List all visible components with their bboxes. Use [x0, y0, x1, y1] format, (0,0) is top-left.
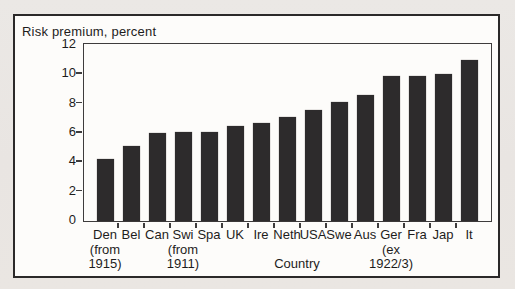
bar-it — [461, 60, 478, 221]
y-tick-label-12: 12 — [46, 36, 76, 52]
x-category-label-line: Fra — [407, 228, 427, 243]
x-category-label-den: Den(from1915) — [88, 228, 121, 272]
x-category-label-line: Spa — [197, 228, 220, 243]
x-category-label-can: Can — [145, 228, 169, 243]
x-category-label-line: Den — [88, 228, 121, 243]
bar-ire — [253, 123, 270, 221]
x-category-label-line: (from — [167, 243, 199, 258]
bar-uk — [227, 126, 244, 221]
y-tick-label-10: 10 — [46, 65, 76, 81]
x-category-label-uk: UK — [226, 228, 244, 243]
x-category-label-line: (from — [88, 243, 121, 258]
x-category-label-it: It — [465, 228, 472, 243]
y-tick-label-0: 0 — [46, 212, 76, 228]
y-tick-label-8: 8 — [46, 95, 76, 111]
x-category-label-neth: Neth — [273, 228, 300, 243]
x-tick-mark-12 — [403, 223, 405, 228]
x-category-label-line: Bel — [122, 228, 141, 243]
bar-swe — [331, 102, 348, 221]
y-tick-label-2: 2 — [46, 183, 76, 199]
x-category-label-line: 1911) — [167, 257, 199, 272]
bar-usa — [305, 110, 322, 221]
x-category-label-swi: Swi(from1911) — [167, 228, 199, 272]
x-category-label-line: It — [465, 228, 472, 243]
x-category-label-line: Swi — [167, 228, 199, 243]
x-category-label-bel: Bel — [122, 228, 141, 243]
x-category-label-line: Can — [145, 228, 169, 243]
x-tick-mark-10 — [351, 223, 353, 228]
x-tick-mark-11 — [377, 223, 379, 228]
bar-can — [149, 133, 166, 221]
x-category-label-line: 1922/3) — [369, 257, 413, 272]
bar-jap — [435, 74, 452, 221]
bar-aus — [357, 95, 374, 221]
bar-ger — [383, 76, 400, 221]
x-category-label-usa: USA — [300, 228, 327, 243]
x-category-label-line: Swe — [326, 228, 351, 243]
bar-bel — [123, 146, 140, 221]
y-tick-mark-10 — [76, 72, 82, 74]
x-category-label-line: (ex — [369, 243, 413, 258]
x-category-label-line: Neth — [273, 228, 300, 243]
x-tick-mark-6 — [247, 223, 249, 228]
y-tick-mark-8 — [76, 102, 82, 104]
x-category-label-line: Ire — [253, 228, 268, 243]
bar-fra — [409, 76, 426, 221]
x-category-label-ire: Ire — [253, 228, 268, 243]
y-tick-mark-2 — [76, 190, 82, 192]
y-axis-title: Risk premium, percent — [22, 24, 156, 39]
x-category-label-line: 1915) — [88, 257, 121, 272]
x-tick-mark-5 — [221, 223, 223, 228]
x-category-label-line: UK — [226, 228, 244, 243]
x-category-label-fra: Fra — [407, 228, 427, 243]
x-tick-mark-14 — [455, 223, 457, 228]
figure-frame: Risk premium, percent 024681012Den(from1… — [13, 14, 500, 278]
y-tick-mark-4 — [76, 160, 82, 162]
plot-area: 024681012Den(from1915)BelCanSwi(from1911… — [83, 43, 492, 222]
x-tick-mark-3 — [169, 223, 171, 228]
x-category-label-line: USA — [300, 228, 327, 243]
bar-den — [97, 159, 114, 221]
x-tick-mark-13 — [429, 223, 431, 228]
y-tick-mark-6 — [76, 131, 82, 133]
x-category-label-swe: Swe — [326, 228, 351, 243]
y-tick-label-4: 4 — [46, 153, 76, 169]
x-category-label-jap: Jap — [433, 228, 454, 243]
figure-screenshot: Risk premium, percent 024681012Den(from1… — [0, 0, 515, 289]
x-axis-title: Country — [274, 256, 320, 271]
y-tick-label-6: 6 — [46, 124, 76, 140]
bar-spa — [201, 132, 218, 221]
x-category-label-spa: Spa — [197, 228, 220, 243]
bar-neth — [279, 117, 296, 221]
x-category-label-line: Jap — [433, 228, 454, 243]
bar-swi — [175, 132, 192, 221]
x-tick-mark-1 — [117, 223, 119, 228]
